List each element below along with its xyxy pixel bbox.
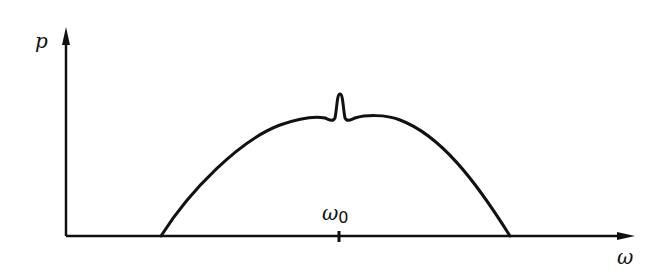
omega0-symbol: ω: [322, 201, 338, 225]
x-axis-arrow-icon: [617, 232, 635, 240]
omega0-label: ω0: [322, 201, 349, 227]
spectrum-diagram: p ω ω0: [0, 0, 669, 277]
omega0-subscript: 0: [338, 208, 348, 227]
y-axis-arrow-icon: [62, 27, 70, 45]
x-axis-label: ω: [617, 245, 633, 269]
y-axis-label: p: [35, 29, 48, 53]
